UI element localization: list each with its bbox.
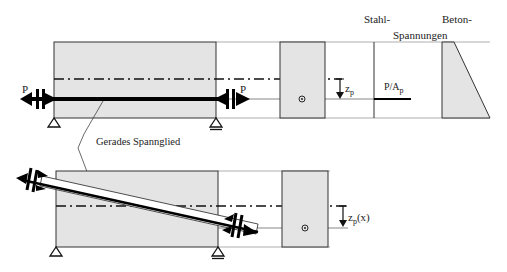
bottom-right-support-icon bbox=[212, 247, 224, 256]
zpx-dimension: zp(x) bbox=[339, 206, 370, 227]
steel-header: Stahl- bbox=[364, 13, 391, 25]
top-beam-body bbox=[54, 42, 216, 118]
steel-stress-diagram: P/Ap bbox=[374, 42, 411, 118]
bottom-beam-body bbox=[56, 171, 218, 247]
stresses-header: Spannungen bbox=[393, 29, 448, 41]
steel-stress-label: P/Ap bbox=[384, 81, 404, 95]
zpx-label: zp(x) bbox=[348, 211, 370, 226]
top-right-support-icon bbox=[210, 118, 222, 127]
prestressed-beam-diagram: P P zp P/Ap Stahl- Beton- Spannungen Ger… bbox=[0, 0, 507, 272]
top-left-support-icon bbox=[48, 118, 60, 127]
tendon-label: Gerades Spannglied bbox=[96, 136, 181, 147]
zp-label: zp bbox=[345, 82, 354, 97]
concrete-header: Beton- bbox=[442, 13, 472, 25]
top-cross-section bbox=[280, 42, 325, 118]
top-right-force-label: P bbox=[240, 83, 246, 95]
top-left-force-label: P bbox=[22, 83, 28, 95]
zp-dimension: zp bbox=[336, 79, 354, 99]
bottom-left-support-icon bbox=[50, 247, 62, 256]
concrete-stress-diagram bbox=[442, 42, 490, 118]
bottom-cross-section bbox=[282, 171, 328, 247]
top-beam-group: P P bbox=[20, 42, 490, 130]
top-straight-tendon bbox=[40, 97, 226, 101]
